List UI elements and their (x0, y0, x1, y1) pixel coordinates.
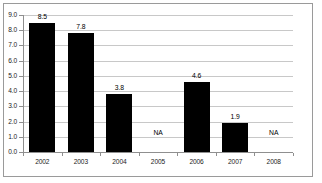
bar (222, 123, 248, 152)
x-tick-mark (177, 153, 178, 156)
bar-value-label: 4.6 (183, 73, 211, 80)
x-tick-label: 2005 (142, 159, 174, 166)
chart-plot-wrapper: 9.08.07.06.05.04.03.02.01.00.0 200220032… (4, 4, 312, 176)
chart-frame: 9.08.07.06.05.04.03.02.01.00.0 200220032… (3, 3, 313, 177)
y-tick-label: 7.0 (4, 42, 17, 49)
y-tick-label: 9.0 (4, 12, 17, 19)
x-tick-label: 2004 (103, 159, 135, 166)
x-tick-mark (23, 153, 24, 156)
y-tick-label: 6.0 (4, 58, 17, 65)
x-tick-mark (62, 153, 63, 156)
bar-na-label: NA (144, 130, 172, 137)
bar (29, 23, 55, 152)
bar-value-label: 1.9 (221, 114, 249, 121)
x-tick-label: 2007 (219, 159, 251, 166)
x-tick-label: 2006 (181, 159, 213, 166)
y-tick-label: 1.0 (4, 134, 17, 141)
bar (68, 33, 94, 152)
x-tick-label: 2003 (65, 159, 97, 166)
bar-value-label: 3.8 (105, 85, 133, 92)
gridline-y (23, 152, 293, 153)
x-tick-label: 2008 (258, 159, 290, 166)
y-tick-label: 8.0 (4, 27, 17, 34)
bar-value-label: 7.8 (67, 24, 95, 31)
y-tick-label: 2.0 (4, 119, 17, 126)
y-tick-label: 3.0 (4, 103, 17, 110)
x-tick-mark (100, 153, 101, 156)
y-tick-label: 5.0 (4, 73, 17, 80)
x-tick-mark (254, 153, 255, 156)
x-tick-mark (139, 153, 140, 156)
bar (184, 82, 210, 152)
x-tick-label: 2002 (26, 159, 58, 166)
bar-value-label: 8.5 (28, 14, 56, 21)
x-tick-mark (293, 153, 294, 156)
bar (106, 94, 132, 152)
bar-na-label: NA (260, 130, 288, 137)
y-tick-label: 0.0 (4, 149, 17, 156)
y-tick-label: 4.0 (4, 88, 17, 95)
x-tick-mark (216, 153, 217, 156)
